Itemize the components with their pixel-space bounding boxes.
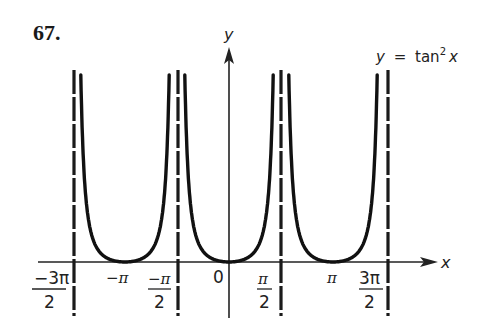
svg-text:3π: 3π [359,268,380,288]
svg-text:2: 2 [44,292,55,312]
y-axis-label: y [223,25,234,44]
svg-text:2: 2 [364,292,375,312]
tick-zero: 0 [213,267,224,287]
curve-branch-3 [289,75,377,262]
tick-neg-pi-2: −π 2 [148,270,172,312]
tick-pi: π [326,269,338,287]
tan-squared-graph: 67. x y y = tan2x −3π 2 −π [0,0,486,335]
x-axis-label: x [440,253,451,272]
y-axis: y [223,25,234,318]
svg-text:2: 2 [259,292,270,312]
tick-neg-3pi-2: −3π 2 [32,268,69,312]
tick-3pi-2: 3π 2 [359,268,383,312]
function-label: y = tan2x [375,46,458,66]
tick-neg-pi: −π [106,269,130,287]
problem-number: 67. [33,20,61,45]
svg-text:π: π [257,270,269,288]
tick-pi-2: π 2 [257,270,272,312]
curve-branch-1 [81,75,169,262]
svg-text:−π: −π [148,270,172,288]
svg-text:2: 2 [154,292,165,312]
svg-text:−3π: −3π [34,268,69,288]
x-tick-labels: −3π 2 −π −π 2 0 π 2 π 3π 2 [32,267,383,312]
